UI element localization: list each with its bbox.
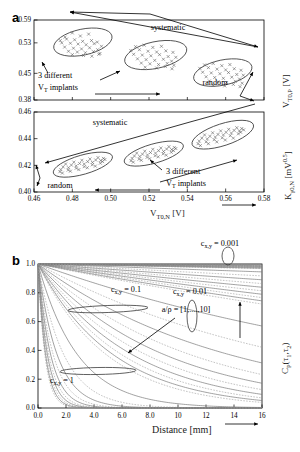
y-tick-label: 0.45 [18, 70, 31, 78]
scatter-point [172, 64, 175, 67]
scatter-point [201, 71, 204, 74]
systematic-label: systematic [93, 118, 128, 127]
plot-frame [34, 112, 264, 192]
vt0p-unit: [V] [281, 74, 291, 89]
callout-ellipse [222, 247, 234, 265]
x-tick-label: 6.0 [118, 412, 127, 420]
scatter-point [198, 140, 201, 143]
decay-curve [38, 264, 262, 294]
scatter-point [88, 46, 91, 49]
scatter-point [207, 66, 210, 69]
cp-direction-arrow [238, 302, 241, 338]
scatter-point [153, 59, 156, 62]
scatter-point [71, 53, 74, 56]
scatter-point [97, 156, 100, 159]
scatter-point [147, 50, 150, 53]
scatter-point [167, 145, 170, 148]
cluster-ellipse [51, 23, 115, 61]
scatter-point [67, 50, 70, 53]
scatter-point [221, 136, 224, 139]
scatter-point [80, 47, 83, 50]
scatter-point [157, 63, 160, 66]
implants-label-line1: 3 different [38, 71, 73, 80]
scatter-point [65, 38, 68, 41]
scatter-point [72, 161, 75, 164]
c-label-0001: cx,y = 0.001 [201, 239, 239, 249]
scatter-point [149, 54, 152, 57]
y-tick-label: 0.8 [26, 289, 35, 297]
scatter-point [225, 131, 228, 134]
cp-mid: ,τ [280, 349, 290, 355]
x-tick-label: 0.50 [104, 195, 117, 203]
scatter-point [140, 62, 143, 65]
scatter-point [166, 62, 169, 65]
vt0p-sub: T0,P [286, 89, 293, 101]
random-label: random [202, 78, 228, 87]
scatter-point [165, 154, 168, 157]
scatter-point [155, 51, 158, 54]
panel-a-top-plot: 0.590.530.450.38systematicrandom3 differ… [18, 10, 264, 104]
x-tick-label: 0.46 [28, 195, 41, 203]
y-tick-label: 0.4 [26, 347, 35, 355]
scatter-point [213, 138, 216, 141]
scatter-point [80, 159, 83, 162]
random-arrow-up [35, 165, 40, 178]
scatter-point [207, 142, 210, 145]
scatter-point [138, 48, 141, 51]
scatter-point [87, 33, 90, 36]
scatter-point [84, 51, 87, 54]
scatter-point [73, 38, 76, 41]
y-tick-label: 0.53 [18, 39, 31, 47]
scatter-point [151, 148, 154, 151]
scatter-point [233, 129, 236, 132]
y-tick-label: 0.59 [18, 16, 31, 24]
cp-sub: P [285, 364, 292, 368]
a-rho-arrow [128, 318, 175, 353]
scatter-point [64, 163, 67, 166]
x-tick-label: 0.52 [143, 195, 156, 203]
x-tick-label: 0.54 [181, 195, 194, 203]
scatter-point [208, 135, 211, 138]
scatter-point [211, 131, 214, 134]
scatter-point [162, 58, 165, 61]
scatter-point [93, 42, 96, 45]
x-tick-label: 0.0 [34, 412, 43, 420]
callout-ellipse [60, 367, 136, 375]
scatter-point [173, 146, 176, 149]
scatter-point [83, 163, 86, 166]
x-tick-label: 12 [202, 412, 210, 420]
scatter-point [233, 67, 236, 70]
y-tick-label: 0.38 [18, 96, 31, 104]
scatter-point [235, 73, 238, 76]
top-left-arrow [70, 10, 150, 14]
scatter-point [218, 72, 221, 75]
panel-b-plot: 0.00.20.40.60.81.00.02.04.06.08.01012141… [26, 239, 266, 426]
vt0n-direction-arrow [222, 203, 256, 206]
scatter-point [86, 166, 89, 169]
x-tick-label: 14 [230, 412, 238, 420]
cp-sub1: 1 [285, 355, 292, 358]
random-arrow-down [37, 178, 40, 186]
scatter-point [81, 40, 84, 43]
scatter-point [200, 137, 203, 140]
scatter-point [94, 165, 97, 168]
kgamma-sub: γ0,N [288, 181, 295, 193]
distance-direction-arrow [225, 422, 258, 425]
scatter-point [88, 157, 91, 160]
scatter-point [97, 53, 100, 56]
kgamma-close: ] [283, 151, 293, 154]
scatter-point [235, 126, 238, 129]
random-arrow-down [240, 96, 254, 101]
scatter-point [154, 154, 157, 157]
cp-sub2: 2 [285, 345, 292, 348]
scatter-point [72, 47, 75, 50]
random-label: random [47, 181, 73, 190]
scatter-point [206, 137, 209, 140]
scatter-point [141, 153, 144, 156]
panel-a-bottom-y-axis-title: Kγ0,N [mV0.5] [268, 118, 284, 200]
scatter-point [203, 133, 206, 136]
scatter-point [148, 62, 151, 65]
scatter-point [145, 58, 148, 61]
y-tick-label: 1.0 [26, 260, 35, 268]
scatter-point [217, 133, 220, 136]
